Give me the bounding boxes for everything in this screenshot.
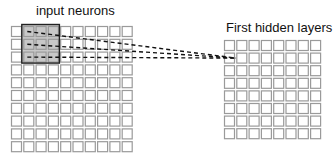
hidden-neuron	[286, 104, 296, 114]
input-neuron	[36, 65, 46, 75]
input-neuron	[61, 91, 71, 101]
hidden-neuron	[286, 116, 296, 126]
input-neuron	[24, 142, 34, 152]
hidden-neuron	[311, 116, 321, 126]
hidden-neuron	[311, 78, 321, 88]
input-neuron	[110, 78, 120, 88]
hidden-neuron	[298, 104, 308, 114]
input-neuron	[98, 27, 108, 37]
hidden-neuron	[261, 66, 271, 76]
hidden-neuron	[261, 104, 271, 114]
hidden-neuron	[274, 53, 284, 63]
hidden-neuron	[225, 104, 235, 114]
hidden-neuron	[286, 53, 296, 63]
input-neuron	[61, 39, 71, 49]
hidden-neuron	[274, 104, 284, 114]
input-neuron	[36, 78, 46, 88]
input-neuron	[98, 91, 108, 101]
input-neuron	[73, 116, 83, 126]
hidden-neuron	[261, 129, 271, 139]
input-neuron	[110, 91, 120, 101]
hidden-neuron	[298, 41, 308, 51]
hidden-neuron	[298, 66, 308, 76]
input-neuron	[122, 103, 132, 113]
hidden-neuron	[311, 53, 321, 63]
input-neuron	[122, 142, 132, 152]
hidden-neuron	[311, 91, 321, 101]
hidden-neuron	[237, 116, 247, 126]
hidden-neuron	[261, 116, 271, 126]
input-neuron	[24, 78, 34, 88]
input-neuron	[61, 27, 71, 37]
input-neuron	[61, 129, 71, 139]
input-neuron	[110, 103, 120, 113]
input-neuron	[98, 116, 108, 126]
input-neuron	[24, 103, 34, 113]
hidden-neuron	[286, 66, 296, 76]
input-neuron	[36, 142, 46, 152]
input-neuron	[110, 129, 120, 139]
hidden-neuron	[261, 41, 271, 51]
input-neuron	[73, 27, 83, 37]
hidden-neuron	[274, 41, 284, 51]
hidden-neuron	[274, 91, 284, 101]
input-neuron	[73, 65, 83, 75]
input-neuron	[12, 129, 22, 139]
input-neuron	[48, 116, 58, 126]
input-neuron	[85, 91, 95, 101]
input-neuron	[110, 39, 120, 49]
hidden-neuron	[311, 66, 321, 76]
hidden-neuron	[237, 53, 247, 63]
input-neuron	[73, 103, 83, 113]
input-neuron	[110, 27, 120, 37]
input-neuron	[110, 142, 120, 152]
input-neuron	[12, 39, 22, 49]
hidden-neuron	[298, 78, 308, 88]
input-neuron	[12, 78, 22, 88]
input-neuron	[98, 103, 108, 113]
input-neuron	[12, 116, 22, 126]
input-neuron	[110, 65, 120, 75]
hidden-neuron	[274, 116, 284, 126]
hidden-neuron	[298, 53, 308, 63]
hidden-neuron	[261, 91, 271, 101]
hidden-neuron	[274, 78, 284, 88]
hidden-neuron	[286, 41, 296, 51]
input-neuron	[73, 129, 83, 139]
input-neuron	[12, 27, 22, 37]
input-neuron	[48, 129, 58, 139]
input-neuron	[48, 65, 58, 75]
input-neuron	[48, 142, 58, 152]
input-neuron	[24, 129, 34, 139]
input-neuron	[36, 91, 46, 101]
hidden-neuron	[286, 129, 296, 139]
hidden-neuron	[237, 91, 247, 101]
hidden-neuron	[237, 66, 247, 76]
input-neuron	[61, 65, 71, 75]
input-neuron	[85, 78, 95, 88]
input-neuron	[61, 78, 71, 88]
input-neuron	[122, 65, 132, 75]
input-neuron	[85, 27, 95, 37]
hidden-neuron	[249, 104, 259, 114]
hidden-neuron	[286, 91, 296, 101]
input-neuron	[61, 116, 71, 126]
input-neuron	[12, 52, 22, 62]
input-neuron	[98, 142, 108, 152]
hidden-neuron	[249, 53, 259, 63]
input-neuron	[122, 91, 132, 101]
input-neuron	[122, 116, 132, 126]
input-neuron	[12, 103, 22, 113]
input-neuron	[85, 116, 95, 126]
hidden-neuron	[225, 91, 235, 101]
input-neuron	[36, 103, 46, 113]
hidden-neuron	[261, 53, 271, 63]
input-neuron	[12, 91, 22, 101]
hidden-neuron	[249, 66, 259, 76]
hidden-neuron	[225, 129, 235, 139]
hidden-neuron	[298, 129, 308, 139]
hidden-neuron	[286, 78, 296, 88]
hidden-neuron	[237, 129, 247, 139]
input-neuron	[85, 65, 95, 75]
hidden-neuron	[311, 41, 321, 51]
